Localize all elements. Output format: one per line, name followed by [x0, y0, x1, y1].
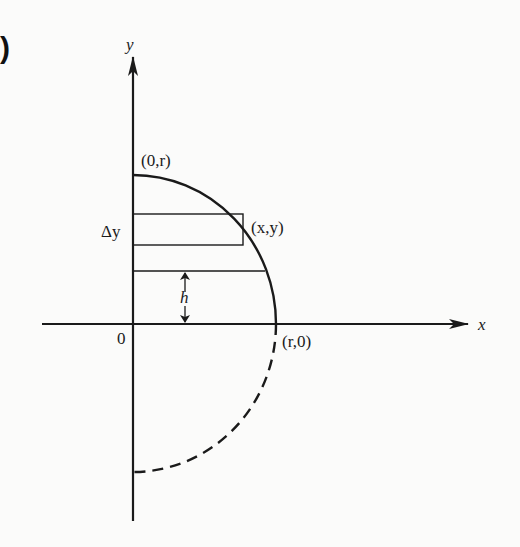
figure-corner-mark: ): [0, 31, 10, 64]
strip-rectangle: [133, 214, 243, 245]
x-axis-label: x: [477, 315, 486, 334]
point-right-label: (r,0): [282, 332, 311, 351]
delta-y-label: Δy: [101, 222, 121, 241]
point-strip-label: (x,y): [251, 218, 284, 237]
dashed-arc: [133, 324, 276, 472]
solid-arc: [133, 175, 276, 324]
y-axis-label: y: [124, 35, 134, 54]
semicircle-diagram: ) y x 0 (0,r) (r,0) (x,y) Δy h: [0, 0, 520, 547]
origin-label: 0: [117, 329, 126, 348]
h-label: h: [180, 288, 189, 307]
point-top-label: (0,r): [141, 151, 171, 170]
